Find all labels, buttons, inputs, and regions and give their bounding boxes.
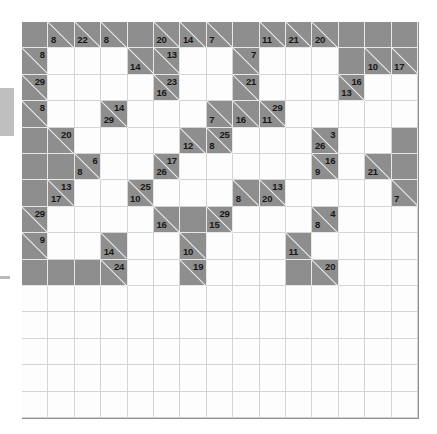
- entry-cell[interactable]: [365, 233, 391, 259]
- entry-cell[interactable]: [154, 312, 180, 338]
- entry-cell[interactable]: [392, 392, 418, 418]
- entry-cell[interactable]: [233, 260, 259, 286]
- entry-cell[interactable]: [207, 286, 233, 312]
- entry-cell[interactable]: [101, 154, 127, 180]
- entry-cell[interactable]: [233, 365, 259, 391]
- entry-cell[interactable]: [312, 75, 338, 101]
- entry-cell[interactable]: [48, 233, 74, 259]
- entry-cell[interactable]: [339, 312, 365, 338]
- entry-cell[interactable]: [180, 339, 206, 365]
- entry-cell[interactable]: [128, 154, 154, 180]
- entry-cell[interactable]: [233, 233, 259, 259]
- entry-cell[interactable]: [233, 207, 259, 233]
- entry-cell[interactable]: [339, 154, 365, 180]
- entry-cell[interactable]: [260, 75, 286, 101]
- entry-cell[interactable]: [48, 339, 74, 365]
- entry-cell[interactable]: [392, 339, 418, 365]
- entry-cell[interactable]: [207, 75, 233, 101]
- entry-cell[interactable]: [207, 260, 233, 286]
- entry-cell[interactable]: [22, 392, 48, 418]
- entry-cell[interactable]: [154, 101, 180, 127]
- entry-cell[interactable]: [207, 392, 233, 418]
- entry-cell[interactable]: [286, 101, 312, 127]
- entry-cell[interactable]: [75, 339, 101, 365]
- entry-cell[interactable]: [286, 286, 312, 312]
- entry-cell[interactable]: [312, 312, 338, 338]
- entry-cell[interactable]: [207, 233, 233, 259]
- entry-cell[interactable]: [260, 207, 286, 233]
- entry-cell[interactable]: [233, 154, 259, 180]
- entry-cell[interactable]: [128, 339, 154, 365]
- entry-cell[interactable]: [180, 312, 206, 338]
- entry-cell[interactable]: [286, 365, 312, 391]
- entry-cell[interactable]: [365, 128, 391, 154]
- entry-cell[interactable]: [312, 101, 338, 127]
- entry-cell[interactable]: [75, 233, 101, 259]
- entry-cell[interactable]: [312, 48, 338, 74]
- entry-cell[interactable]: [207, 48, 233, 74]
- entry-cell[interactable]: [128, 312, 154, 338]
- entry-cell[interactable]: [339, 339, 365, 365]
- entry-cell[interactable]: [48, 48, 74, 74]
- entry-cell[interactable]: [260, 233, 286, 259]
- entry-cell[interactable]: [75, 365, 101, 391]
- entry-cell[interactable]: [22, 286, 48, 312]
- entry-cell[interactable]: [312, 233, 338, 259]
- entry-cell[interactable]: [286, 75, 312, 101]
- entry-cell[interactable]: [128, 260, 154, 286]
- entry-cell[interactable]: [286, 128, 312, 154]
- entry-cell[interactable]: [365, 286, 391, 312]
- entry-cell[interactable]: [207, 180, 233, 206]
- entry-cell[interactable]: [233, 312, 259, 338]
- entry-cell[interactable]: [260, 260, 286, 286]
- kakuro-board[interactable]: 8228201471121208141371017292316211613814…: [22, 22, 419, 419]
- entry-cell[interactable]: [48, 207, 74, 233]
- entry-cell[interactable]: [339, 286, 365, 312]
- entry-cell[interactable]: [128, 75, 154, 101]
- entry-cell[interactable]: [392, 233, 418, 259]
- entry-cell[interactable]: [286, 392, 312, 418]
- entry-cell[interactable]: [365, 207, 391, 233]
- entry-cell[interactable]: [286, 339, 312, 365]
- entry-cell[interactable]: [128, 286, 154, 312]
- entry-cell[interactable]: [101, 180, 127, 206]
- entry-cell[interactable]: [286, 48, 312, 74]
- entry-cell[interactable]: [365, 260, 391, 286]
- entry-cell[interactable]: [22, 365, 48, 391]
- entry-cell[interactable]: [339, 101, 365, 127]
- entry-cell[interactable]: [365, 312, 391, 338]
- entry-cell[interactable]: [128, 233, 154, 259]
- entry-cell[interactable]: [101, 48, 127, 74]
- entry-cell[interactable]: [180, 180, 206, 206]
- entry-cell[interactable]: [75, 392, 101, 418]
- entry-cell[interactable]: [312, 365, 338, 391]
- entry-cell[interactable]: [154, 128, 180, 154]
- entry-cell[interactable]: [75, 48, 101, 74]
- entry-cell[interactable]: [101, 286, 127, 312]
- entry-cell[interactable]: [22, 339, 48, 365]
- entry-cell[interactable]: [260, 365, 286, 391]
- entry-cell[interactable]: [207, 312, 233, 338]
- entry-cell[interactable]: [233, 392, 259, 418]
- entry-cell[interactable]: [48, 312, 74, 338]
- entry-cell[interactable]: [154, 392, 180, 418]
- entry-cell[interactable]: [260, 128, 286, 154]
- entry-cell[interactable]: [286, 154, 312, 180]
- entry-cell[interactable]: [260, 392, 286, 418]
- entry-cell[interactable]: [312, 339, 338, 365]
- entry-cell[interactable]: [154, 365, 180, 391]
- entry-cell[interactable]: [101, 75, 127, 101]
- entry-cell[interactable]: [75, 180, 101, 206]
- entry-cell[interactable]: [180, 392, 206, 418]
- entry-cell[interactable]: [128, 365, 154, 391]
- entry-cell[interactable]: [312, 180, 338, 206]
- entry-cell[interactable]: [339, 180, 365, 206]
- entry-cell[interactable]: [75, 312, 101, 338]
- entry-cell[interactable]: [392, 365, 418, 391]
- entry-cell[interactable]: [392, 286, 418, 312]
- entry-cell[interactable]: [101, 312, 127, 338]
- entry-cell[interactable]: [260, 48, 286, 74]
- entry-cell[interactable]: [365, 75, 391, 101]
- entry-cell[interactable]: [365, 365, 391, 391]
- entry-cell[interactable]: [260, 286, 286, 312]
